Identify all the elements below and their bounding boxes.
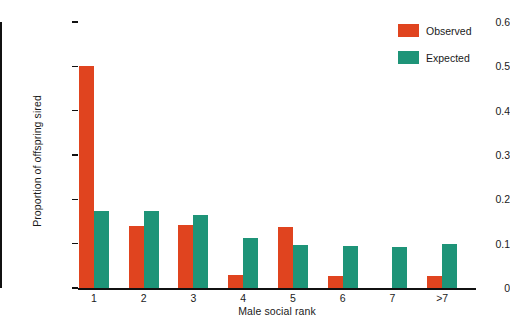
x-axis-line [78,288,476,290]
x-axis-tick-label: 3 [173,292,213,304]
legend-label: Observed [426,25,472,37]
chart-legend: ObservedExpected [398,24,472,78]
bar-expected-1 [94,211,109,288]
bar-chart-figure: Proportion of offspring sired Male socia… [0,0,510,334]
x-axis-tick-label: 4 [223,292,263,304]
legend-swatch-expected [398,51,419,64]
x-axis-tick-label: 6 [323,292,363,304]
y-axis-title: Proportion of offspring sired [31,46,43,276]
bar-observed-5 [278,227,293,288]
bar-observed-1 [79,66,94,288]
bar-expected-4 [243,238,258,288]
x-axis-tick-label: 1 [74,292,114,304]
legend-swatch-observed [398,24,419,37]
bar-expected-gt7 [442,244,457,288]
y-axis-line [0,22,2,288]
bar-expected-7 [392,247,407,288]
legend-label: Expected [426,52,470,64]
bar-expected-5 [293,245,308,288]
bar-expected-6 [343,246,358,288]
bar-observed-3 [178,225,193,288]
bar-expected-3 [193,215,208,288]
x-axis-tick-label: 5 [273,292,313,304]
legend-item-observed: Observed [398,24,472,37]
x-axis-title: Male social rank [78,305,476,317]
x-axis-tick-label: 2 [124,292,164,304]
x-axis-tick-label: >7 [422,292,462,304]
x-axis-tick-label: 7 [372,292,412,304]
bar-observed-4 [228,275,243,288]
bar-expected-2 [144,211,159,288]
bar-observed-6 [328,276,343,288]
bar-observed-gt7 [427,276,442,288]
bar-observed-2 [129,226,144,288]
legend-item-expected: Expected [398,51,472,64]
